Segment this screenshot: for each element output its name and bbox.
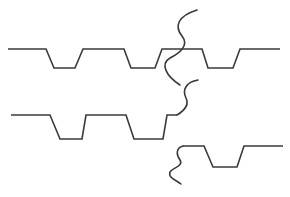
waveform-row-1	[8, 49, 280, 68]
waveform-row-2	[11, 115, 177, 139]
waveform-row-3	[183, 146, 283, 167]
break-mark-3	[170, 146, 183, 184]
break-mark-1	[165, 10, 197, 85]
waveform-diagram	[0, 0, 290, 197]
